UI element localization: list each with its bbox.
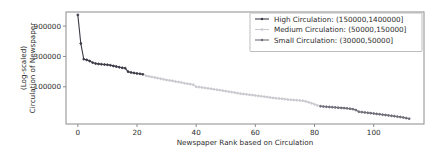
series-marker	[234, 92, 236, 94]
legend: High Circulation: (150000,1400000]Medium…	[250, 13, 422, 52]
series-marker	[317, 104, 319, 106]
series-marker	[231, 91, 233, 93]
series-marker	[192, 84, 194, 86]
series-marker	[379, 113, 381, 115]
series-marker	[204, 87, 206, 89]
series-marker	[343, 107, 345, 109]
series-marker	[77, 14, 79, 16]
series-marker	[272, 97, 274, 99]
series-marker	[112, 65, 114, 67]
series-marker	[388, 114, 390, 116]
series-marker	[175, 81, 177, 83]
series-marker	[240, 93, 242, 95]
series-marker	[396, 116, 398, 118]
series-marker	[109, 64, 111, 66]
series-marker	[355, 109, 357, 111]
series-marker	[340, 107, 342, 109]
series-marker	[266, 96, 268, 98]
series-marker	[186, 83, 188, 85]
series-marker	[189, 83, 191, 85]
series-marker	[130, 72, 132, 74]
series-marker	[399, 116, 401, 118]
series-marker	[139, 73, 141, 75]
series-marker	[308, 101, 310, 103]
series-marker	[328, 106, 330, 108]
series-marker	[325, 106, 327, 108]
series-marker	[160, 78, 162, 80]
series-marker	[393, 115, 395, 117]
series-marker	[246, 93, 248, 95]
series-marker	[257, 95, 259, 97]
series-marker	[243, 93, 245, 95]
x-tick-label-60: 60	[251, 128, 261, 137]
series-marker	[263, 96, 265, 98]
series-marker	[314, 103, 316, 105]
series-marker	[269, 97, 271, 99]
series-marker	[172, 80, 174, 82]
series-marker	[260, 95, 262, 97]
series-marker	[331, 106, 333, 108]
series-marker	[373, 113, 375, 115]
series-marker	[302, 100, 304, 102]
series-marker	[169, 79, 171, 81]
series-marker	[148, 75, 150, 77]
series-marker	[334, 106, 336, 108]
series-1	[145, 75, 319, 107]
series-marker	[83, 58, 85, 60]
x-tick-label-100: 100	[367, 128, 381, 137]
series-marker	[278, 98, 280, 100]
series-marker	[352, 108, 354, 110]
series-marker	[296, 99, 298, 101]
series-marker	[154, 77, 156, 79]
series-marker	[98, 63, 100, 65]
series-marker	[367, 112, 369, 114]
series-marker	[281, 98, 283, 100]
series-marker	[248, 94, 250, 96]
series-marker	[127, 71, 129, 73]
series-marker	[305, 100, 307, 102]
series-marker	[293, 99, 295, 101]
series-marker	[225, 90, 227, 92]
series-marker	[213, 88, 215, 90]
series-marker	[183, 82, 185, 84]
series-marker	[370, 112, 372, 114]
series-marker	[320, 105, 322, 107]
series-marker	[115, 66, 117, 68]
series-marker	[228, 91, 230, 93]
series-marker	[275, 97, 277, 99]
series-marker	[195, 86, 197, 88]
series-0	[77, 14, 144, 75]
series-marker	[133, 72, 135, 74]
x-tick-label-0: 0	[76, 128, 81, 137]
series-marker	[311, 102, 313, 104]
series-marker	[290, 99, 292, 101]
legend-marker-2	[261, 39, 263, 41]
series-2	[320, 105, 411, 119]
series-marker	[219, 89, 221, 91]
series-marker	[346, 107, 348, 109]
series-marker	[222, 90, 224, 92]
legend-label-0: High Circulation: (150000,1400000]	[274, 15, 404, 24]
series-marker	[151, 76, 153, 78]
y-tick-label-300000: 300000	[34, 52, 62, 61]
series-marker	[198, 86, 200, 88]
series-marker	[216, 89, 218, 91]
series-marker	[104, 64, 106, 66]
series-marker	[101, 63, 103, 65]
series-marker	[287, 99, 289, 101]
series-marker	[284, 98, 286, 100]
series-marker	[80, 43, 82, 45]
series-marker	[337, 107, 339, 109]
series-marker	[124, 67, 126, 69]
legend-label-2: Small Circulation: (30000,50000]	[274, 36, 393, 45]
figure: 020406080100100000300000900000Newspaper …	[0, 0, 441, 162]
x-tick-label-20: 20	[132, 128, 142, 137]
legend-label-1: Medium Circulation: (50000,150000]	[274, 25, 407, 34]
series-marker	[86, 59, 88, 61]
x-tick-label-40: 40	[192, 128, 202, 137]
series-marker	[210, 88, 212, 90]
series-marker	[322, 106, 324, 108]
series-marker	[364, 112, 366, 114]
series-marker	[237, 92, 239, 94]
series-marker	[180, 82, 182, 84]
